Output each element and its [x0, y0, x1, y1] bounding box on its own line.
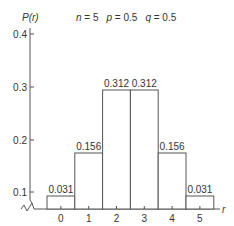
bar-value-label: 0.312: [104, 78, 129, 89]
bar-r-4: [158, 153, 186, 209]
chart-parameters: n = 5p = 0.5q = 0.5: [76, 12, 177, 23]
bar-r-2: [103, 90, 131, 209]
x-axis-label: r: [222, 204, 226, 215]
bar-value-label: 0.031: [187, 184, 212, 195]
x-tick-label: 3: [142, 213, 148, 224]
bar-value-label: 0.312: [132, 78, 157, 89]
x-tick-label: 5: [197, 213, 203, 224]
bar-r-1: [75, 153, 103, 209]
y-tick-label: 0.1: [13, 187, 27, 198]
y-tick-label: 0.2: [13, 135, 27, 146]
y-axis-label: P(r): [22, 12, 39, 23]
y-tick-label: 0.4: [13, 29, 27, 40]
bar-value-label: 0.031: [48, 184, 73, 195]
bar-r-3: [130, 90, 158, 209]
x-tick-label: 1: [86, 213, 92, 224]
y-tick-label: 0.3: [13, 82, 27, 93]
bar-value-label: 0.156: [160, 141, 185, 152]
y-ticks: 0.10.20.30.4: [13, 29, 34, 198]
bar-value-label: 0.156: [76, 141, 101, 152]
x-tick-label: 2: [114, 213, 120, 224]
x-tick-label: 4: [169, 213, 175, 224]
binomial-histogram: 0.10.20.30.4 0.0310.1560.3120.3120.1560.…: [0, 0, 234, 226]
bars: 0.0310.1560.3120.3120.1560.031: [47, 78, 214, 209]
x-tick-label: 0: [58, 213, 64, 224]
